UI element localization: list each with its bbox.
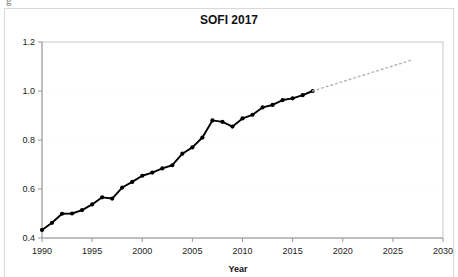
data-point-2008 [220,120,224,124]
data-series-group [40,60,413,232]
data-point-2012 [260,105,264,109]
data-point-2014 [281,98,285,102]
data-point-2016 [301,93,305,97]
data-point-1990 [40,228,44,232]
y-axis-tick-labels: 0.40.60.81.01.2 [22,37,35,243]
x-tick-label-2005: 2005 [182,246,202,256]
data-point-1992 [60,212,64,216]
data-point-1994 [80,208,84,212]
gridlines-group [42,42,443,189]
y-tick-label-1.2: 1.2 [22,37,35,47]
data-point-1995 [90,202,94,206]
x-tick-label-2020: 2020 [333,246,353,256]
projection-line [313,60,413,91]
axis-ticks-group [38,42,443,242]
data-point-2015 [291,96,295,100]
x-tick-label-2015: 2015 [283,246,303,256]
x-tick-label-2030: 2030 [433,246,453,256]
figure-root: g 0.40.60.81.01.2 1990199520002005201020… [0,0,458,277]
data-point-1998 [120,185,124,189]
data-point-2007 [210,118,214,122]
data-point-2000 [140,174,144,178]
data-point-2009 [230,124,234,128]
data-point-2002 [160,166,164,170]
data-point-2011 [250,113,254,117]
sofi-2017-line-chart: 0.40.60.81.01.2 199019952000200520102015… [0,0,458,277]
x-tick-label-2000: 2000 [132,246,152,256]
x-axis-label: Year [228,264,248,274]
y-tick-label-0.4: 0.4 [22,233,35,243]
x-tick-label-2025: 2025 [383,246,403,256]
data-point-2004 [180,152,184,156]
data-point-2001 [150,170,154,174]
x-tick-label-1990: 1990 [32,246,52,256]
data-point-2003 [170,163,174,167]
data-point-2006 [200,135,204,139]
data-point-2013 [270,103,274,107]
data-point-1991 [50,221,54,225]
data-point-2010 [240,116,244,120]
y-tick-label-1: 1.0 [22,86,35,96]
x-tick-label-2010: 2010 [232,246,252,256]
y-tick-label-0.8: 0.8 [22,135,35,145]
data-point-1993 [70,211,74,215]
chart-title: SOFI 2017 [200,13,258,27]
data-point-1996 [100,195,104,199]
x-tick-label-1995: 1995 [82,246,102,256]
data-point-2005 [190,145,194,149]
data-point-1997 [110,196,114,200]
data-point-1999 [130,180,134,184]
x-axis-tick-labels: 199019952000200520102015202020252030 [32,246,453,256]
y-tick-label-0.6: 0.6 [22,184,35,194]
